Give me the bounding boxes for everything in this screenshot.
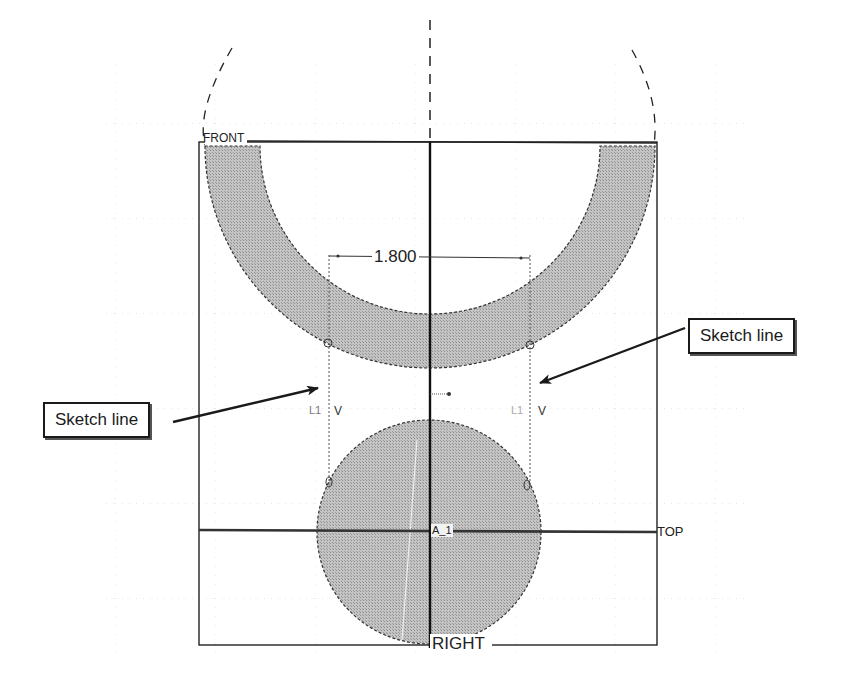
dimension-endpoint — [336, 254, 339, 257]
top-datum-label: TOP — [657, 524, 684, 539]
callout-sketch-line-left: Sketch line — [43, 402, 150, 438]
right-datum-label: RIGHT — [432, 634, 485, 654]
constraint-tag-right: L1 — [511, 404, 523, 416]
callout-sketch-line-right: Sketch line — [688, 318, 795, 354]
center-point — [447, 392, 451, 396]
constraint-tag-left: L1 — [309, 404, 321, 416]
vertical-constraint-left[interactable]: V — [334, 404, 342, 418]
dimension-value[interactable]: 1.800 — [372, 247, 419, 267]
front-datum-label: FRONT — [203, 131, 244, 145]
axis-label: A_1 — [432, 524, 452, 536]
vertical-constraint-right[interactable]: V — [538, 404, 546, 418]
dimension-endpoint — [519, 256, 522, 259]
